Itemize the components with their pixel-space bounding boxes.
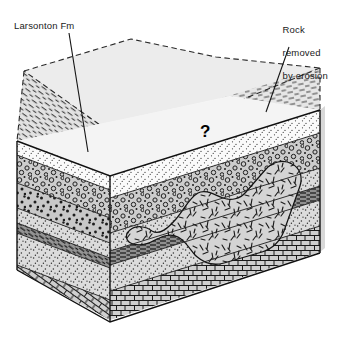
right-edge-face bbox=[320, 106, 325, 252]
label-larsonton-fm: Larsonton Fm bbox=[14, 20, 74, 32]
label-erosion-line-3: by erosion bbox=[283, 70, 328, 81]
question-mark-annotation: ? bbox=[200, 122, 210, 142]
label-erosion-line-2: removed bbox=[283, 47, 321, 58]
label-rock-removed-by-erosion: Rock removed by erosion bbox=[277, 12, 328, 81]
label-erosion-line-1: Rock bbox=[283, 24, 305, 35]
